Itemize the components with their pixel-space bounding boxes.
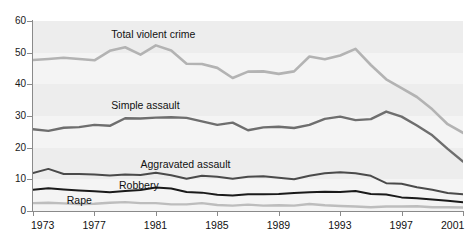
clipped-title-text [0,0,471,3]
x-tick [33,211,34,216]
x-axis-label: 1993 [328,219,351,231]
x-tick [217,211,218,216]
plot-area [33,21,463,211]
y-axis-label: 60 [2,16,26,26]
series-lines-svg [33,21,463,211]
y-tick [27,148,33,149]
x-tick [279,211,280,216]
x-axis-line [32,211,463,212]
series-label-aggravated-assault: Aggravated assault [141,158,231,170]
x-axis-label: 1981 [144,219,167,231]
series-line-rape [33,202,463,207]
x-axis-label: 2001 [441,219,464,231]
violent-crime-trend-chart: 0102030405060 19731977198119851989199319… [0,0,471,243]
y-tick [27,21,33,22]
y-axis-label: 10 [2,174,26,184]
series-label-robbery: Robbery [119,179,159,191]
x-axis-label: 1989 [267,219,290,231]
series-label-total-violent-crime: Total violent crime [111,28,195,40]
x-axis-label: 1997 [390,219,413,231]
x-tick [402,211,403,216]
y-tick [27,84,33,85]
x-tick [156,211,157,216]
y-axis-label: 40 [2,79,26,89]
x-tick [463,211,464,216]
y-tick [27,53,33,54]
series-line-total-violent-crime [33,45,463,132]
x-tick [94,211,95,216]
x-axis-label: 1977 [82,219,105,231]
x-tick [340,211,341,216]
series-line-aggravated-assault [33,169,463,194]
y-axis-label: 30 [2,111,26,121]
y-axis-label: 50 [2,48,26,58]
series-line-robbery [33,188,463,203]
y-tick [27,116,33,117]
x-axis-label: 1973 [31,219,54,231]
y-axis-label: 0 [2,206,26,216]
series-label-rape: Rape [67,194,92,206]
y-tick [27,179,33,180]
series-label-simple-assault: Simple assault [111,99,179,111]
y-axis-label: 20 [2,143,26,153]
series-line-simple-assault [33,112,463,162]
x-axis-label: 1985 [205,219,228,231]
